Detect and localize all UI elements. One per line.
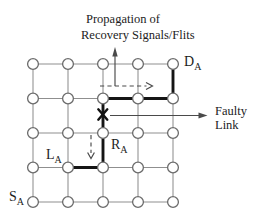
mesh-node bbox=[63, 93, 74, 104]
mesh-node bbox=[98, 93, 109, 104]
mesh-node bbox=[133, 93, 144, 104]
faulty-link-label-line1: Faulty bbox=[215, 104, 248, 118]
current-router-label: RA bbox=[111, 137, 128, 155]
faulty-link-pointer-arrow-head bbox=[199, 112, 208, 118]
faulty-link-label-line1-text: Faulty bbox=[215, 104, 248, 118]
mesh-node bbox=[63, 128, 74, 139]
mesh-node bbox=[98, 59, 109, 70]
mesh-node bbox=[63, 197, 74, 208]
propagation-label-line1: Propagation of bbox=[86, 12, 161, 26]
mesh-node bbox=[168, 59, 179, 70]
labels-layer: Propagation ofRecovery Signals/FlitsFaul… bbox=[9, 12, 248, 207]
propagation-label-line1-text: Propagation of bbox=[86, 12, 161, 26]
mesh-node bbox=[28, 128, 39, 139]
last-router-label: LA bbox=[46, 147, 63, 165]
recovery-up-arrow-head bbox=[112, 47, 117, 57]
mesh-diagram-svg: Propagation ofRecovery Signals/FlitsFaul… bbox=[0, 0, 260, 223]
source-node-label-text: S bbox=[9, 189, 17, 204]
mesh-node bbox=[28, 59, 39, 70]
mesh-node bbox=[28, 162, 39, 173]
recovery-dashed-right-arrow-head bbox=[146, 83, 153, 90]
figure-canvas: Propagation ofRecovery Signals/FlitsFaul… bbox=[0, 0, 260, 223]
source-node-label-subscript: A bbox=[17, 196, 25, 207]
mesh-node bbox=[133, 162, 144, 173]
propagation-label-line2: Recovery Signals/Flits bbox=[81, 28, 195, 42]
faulty-link-label-line2: Link bbox=[215, 118, 239, 132]
mesh-node bbox=[133, 128, 144, 139]
mesh-node bbox=[168, 128, 179, 139]
mesh-node bbox=[98, 162, 109, 173]
current-router-label-subscript: A bbox=[120, 144, 128, 155]
mesh-node bbox=[168, 197, 179, 208]
mesh-node bbox=[133, 197, 144, 208]
source-node-label: SA bbox=[9, 189, 25, 207]
mesh-node bbox=[63, 59, 74, 70]
recovery-dashed-down-arrow-head bbox=[88, 153, 95, 159]
mesh-node bbox=[168, 162, 179, 173]
mesh-node bbox=[63, 162, 74, 173]
mesh-node bbox=[28, 93, 39, 104]
last-router-label-text: L bbox=[46, 147, 55, 162]
mesh-node bbox=[168, 93, 179, 104]
faulty-link-label-line2-text: Link bbox=[215, 118, 239, 132]
destination-node-label: DA bbox=[184, 54, 202, 72]
destination-node-label-text: D bbox=[184, 54, 194, 69]
mesh-node bbox=[28, 197, 39, 208]
mesh-node bbox=[98, 197, 109, 208]
last-router-label-subscript: A bbox=[55, 154, 63, 165]
mesh-node bbox=[133, 59, 144, 70]
propagation-label-line2-text: Recovery Signals/Flits bbox=[81, 28, 195, 42]
destination-node-label-subscript: A bbox=[194, 61, 202, 72]
mesh-node bbox=[98, 128, 109, 139]
